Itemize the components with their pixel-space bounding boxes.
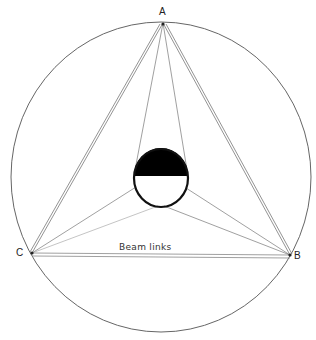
inner-circle: [134, 148, 188, 207]
tangent-lines: [32, 23, 290, 255]
vertex-b-label: B: [294, 251, 301, 261]
vertex-c-label: C: [16, 248, 23, 258]
vertex-c-point: [30, 251, 33, 254]
triangle-edge-ab: [163, 23, 292, 255]
vertex-a-point: [161, 22, 164, 25]
vertex-b-point: [288, 253, 291, 256]
vertex-a-label: A: [159, 7, 166, 17]
diagram-canvas: A B C Beam links: [0, 0, 316, 340]
triangle-edge-cb-beam-links: [32, 253, 290, 258]
geometry-figure: [0, 0, 316, 340]
outer-circle: [11, 22, 311, 332]
beam-links-label: Beam links: [119, 242, 171, 252]
triangle-edge-ac: [30, 23, 163, 253]
